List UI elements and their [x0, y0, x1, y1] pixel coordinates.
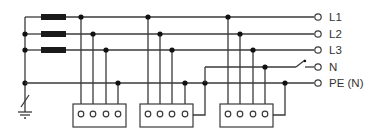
label-n: N	[329, 61, 337, 73]
fuse-icon-l1	[41, 14, 66, 20]
load-box-2	[140, 104, 193, 127]
fuse-icons	[41, 14, 66, 53]
terminal-l1	[315, 14, 321, 20]
output-terminals	[315, 14, 321, 86]
load-1-wiring	[78, 14, 120, 112]
terminal-n	[315, 64, 321, 70]
switch-icon	[296, 60, 306, 67]
fuse-icon-l2	[41, 31, 66, 37]
label-l3: L3	[329, 44, 342, 56]
load-box-1	[73, 104, 126, 127]
terminal-l2	[315, 31, 321, 37]
load-3-wiring	[205, 14, 288, 115]
fuse-icon-l3	[41, 47, 66, 53]
load-2-wiring	[145, 14, 207, 115]
label-l2: L2	[329, 28, 342, 40]
label-l1: L1	[329, 11, 342, 23]
terminal-pe	[315, 80, 321, 86]
load-box-3	[220, 104, 273, 127]
circuit-diagram: L1 L2 L3 N PE (N)	[0, 0, 387, 133]
left-bus	[22, 17, 41, 100]
terminal-l3	[315, 47, 321, 53]
label-pe: PE (N)	[329, 77, 364, 89]
